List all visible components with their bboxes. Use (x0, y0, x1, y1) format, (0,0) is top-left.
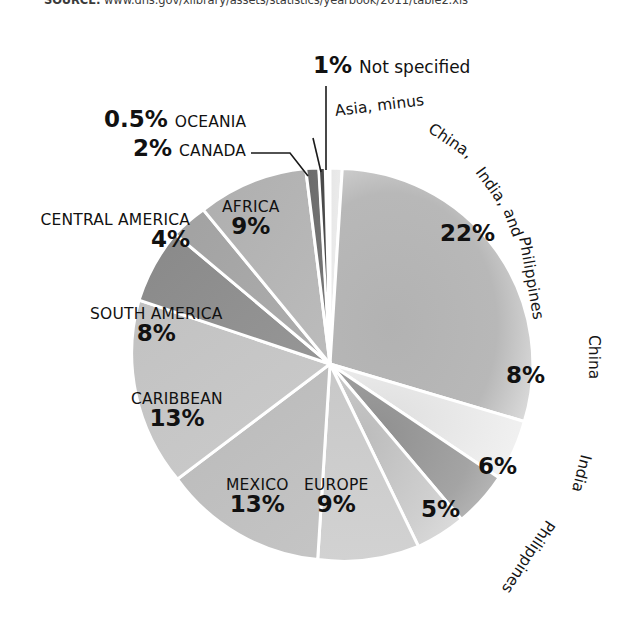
pct-central-america: 4% (10, 228, 190, 252)
name-not-specified: Not specified (359, 59, 470, 77)
label-oceania: 0.5% OCEANIA (104, 108, 246, 132)
pct-china: 8% (506, 364, 545, 388)
name-china: China (585, 335, 603, 379)
label-europe: EUROPE 9% (304, 477, 368, 517)
pct-not-specified: 1% (313, 54, 352, 78)
label-canada: 2% CANADA (133, 137, 246, 161)
label-caribbean: CARIBBEAN 13% (131, 391, 223, 431)
pct-philippines: 5% (421, 498, 460, 522)
label-africa: AFRICA 9% (222, 199, 280, 239)
pct-caribbean: 13% (131, 407, 223, 431)
pct-europe: 9% (304, 493, 368, 517)
label-central-america: CENTRAL AMERICA 4% (10, 212, 190, 252)
pct-asia-other: 22% (440, 222, 495, 246)
pct-mexico: 13% (226, 493, 289, 517)
chart-canvas: SOURCE: www.dhs.gov/xlibrary/assets/stat… (0, 0, 634, 626)
pct-africa: 9% (222, 215, 280, 239)
label-mexico: MEXICO 13% (226, 477, 289, 517)
name-oceania: OCEANIA (175, 114, 247, 130)
pct-oceania: 0.5% (104, 108, 168, 132)
name-canada: CANADA (179, 143, 246, 159)
pct-south-america: 8% (90, 322, 223, 346)
label-south-america: SOUTH AMERICA 8% (90, 306, 223, 346)
pct-canada: 2% (133, 137, 172, 161)
label-not-specified: 1% Not specified (313, 54, 470, 78)
pct-india: 6% (478, 455, 517, 479)
